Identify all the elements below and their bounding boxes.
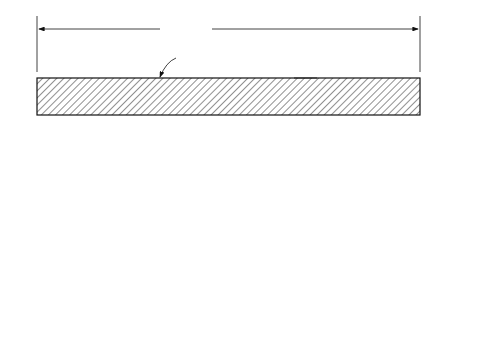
plate-width-dimension [37, 16, 420, 72]
plate-thickness-dimension [0, 0, 376, 78]
plate-shape [37, 78, 420, 115]
rolled-surface-leader [160, 58, 176, 77]
diagram-canvas [0, 0, 499, 337]
